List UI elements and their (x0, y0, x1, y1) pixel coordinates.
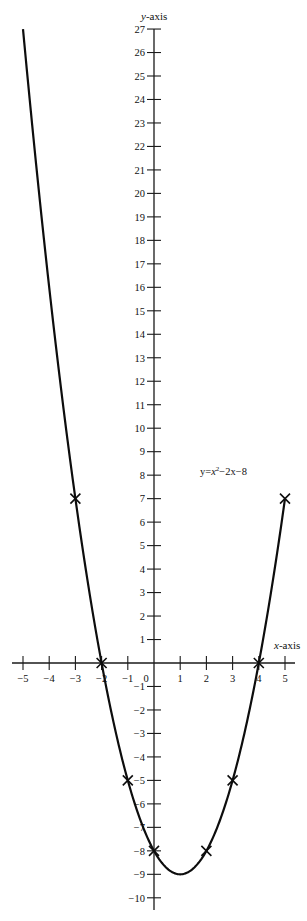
y-tick-label: −8 (134, 846, 145, 857)
axes (12, 29, 295, 910)
x-tick-label: −1 (122, 673, 133, 684)
y-tick-label: 2 (140, 611, 145, 622)
y-tick-label: −3 (134, 728, 145, 739)
parabola-chart: −5−4−3−2−1012345 −10−9−8−7−6−5−4−3−2−112… (0, 0, 307, 921)
y-ticks: −10−9−8−7−6−5−4−3−2−11234567891011121314… (129, 24, 161, 904)
equation-rest: −2x−8 (219, 466, 247, 477)
y-tick-label: 15 (135, 306, 146, 317)
y-tick-label: 13 (135, 353, 146, 364)
y-tick-label: −2 (134, 705, 145, 716)
y-tick-label: 17 (135, 259, 146, 270)
y-tick-label: 16 (135, 282, 146, 293)
y-tick-label: 11 (135, 400, 145, 411)
x-tick-label: 1 (178, 673, 183, 684)
y-tick-label: 26 (135, 47, 146, 58)
y-tick-label: 18 (135, 235, 146, 246)
y-axis-title: y-axis (140, 10, 167, 22)
y-tick-label: 4 (140, 564, 146, 575)
y-tick-label: 27 (135, 24, 146, 35)
x-marker-icon (201, 846, 211, 856)
equation-label: y=x2−2x−8 (200, 465, 247, 477)
x-axis-title: x-axis (273, 639, 300, 651)
y-tick-label: 14 (135, 329, 146, 340)
y-tick-label: 10 (135, 423, 146, 434)
y-tick-label: 9 (140, 446, 145, 457)
x-tick-label: −4 (44, 673, 56, 684)
y-tick-label: 25 (135, 71, 146, 82)
y-tick-label: 19 (135, 212, 146, 223)
y-tick-label: 20 (135, 188, 146, 199)
y-tick-label: 8 (140, 470, 145, 481)
y-tick-label: −5 (134, 775, 145, 786)
y-tick-label: −1 (134, 681, 145, 692)
x-tick-label: 3 (230, 673, 235, 684)
equation-lhs: y= (200, 466, 211, 477)
x-tick-label: −5 (17, 673, 28, 684)
x-tick-label: 2 (204, 673, 209, 684)
y-tick-label: 7 (140, 493, 145, 504)
y-tick-label: 3 (140, 587, 145, 598)
y-tick-label: 12 (135, 376, 146, 387)
y-tick-label: −10 (129, 893, 145, 904)
y-tick-label: −4 (134, 752, 146, 763)
x-tick-label: 5 (282, 673, 287, 684)
y-tick-label: 6 (140, 517, 145, 528)
y-tick-label: 22 (135, 141, 146, 152)
y-tick-label: 1 (140, 634, 145, 645)
x-ticks: −5−4−3−2−1012345 (17, 656, 287, 684)
y-tick-label: 21 (135, 165, 146, 176)
y-tick-label: 23 (135, 118, 146, 129)
y-tick-label: 5 (140, 540, 145, 551)
y-tick-label: −9 (134, 869, 145, 880)
x-tick-label: −3 (70, 673, 81, 684)
y-tick-label: 24 (135, 94, 146, 105)
